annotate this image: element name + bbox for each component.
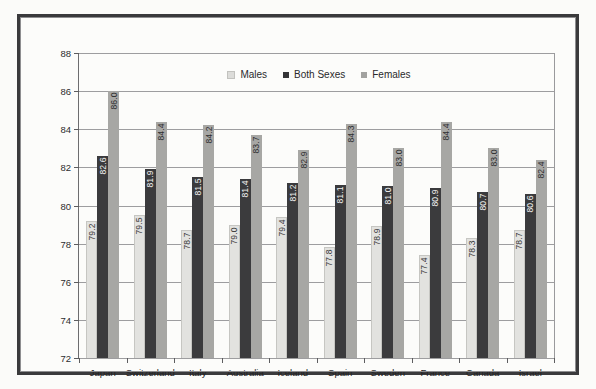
bar-value-label: 81.5 [193,178,203,195]
bar-value-label: 78.3 [467,240,477,257]
bar[interactable]: 79.5 [134,215,145,358]
bar-value-label: 80.6 [525,195,535,212]
bar-group: 79.282.686.0Japan [79,53,127,358]
bar-value-label: 80.9 [430,190,440,207]
x-axis-tick [269,358,270,363]
x-axis-category-label: Japan [90,367,116,378]
x-axis-tick [79,358,80,363]
chart-frame: MalesBoth SexesFemales 88868482807876747… [17,14,579,375]
x-axis-tick [364,358,365,363]
bar[interactable]: 79.2 [86,221,97,358]
bar[interactable]: 82.6 [97,156,108,358]
bar[interactable]: 82.9 [298,150,309,358]
bar-group: 79.481.282.9Iceland [269,53,317,358]
x-axis-category-label: Canada [466,367,499,378]
x-axis-tick [317,358,318,363]
bar-value-label: 79.4 [277,219,287,236]
y-axis-tick-label: 84 [60,124,71,135]
bar-value-label: 81.4 [240,180,250,197]
y-axis-tick-label: 76 [60,276,71,287]
bar[interactable]: 82.4 [536,160,547,358]
bar-value-label: 80.7 [478,194,488,211]
bar[interactable]: 81.5 [192,177,203,358]
y-axis-tick-label: 80 [60,200,71,211]
bar[interactable]: 79.4 [276,217,287,358]
x-axis-category-label: France [420,367,450,378]
bar-value-label: 79.5 [134,217,144,234]
bar[interactable]: 79.0 [229,225,240,358]
bar-value-label: 84.4 [441,123,451,140]
x-axis-category-label: Sweden [371,367,405,378]
y-axis-tick-label: 86 [60,86,71,97]
bar-group: 78.780.682.4Israel [507,53,555,358]
bar[interactable]: 84.4 [156,122,167,358]
bar[interactable]: 84.3 [346,124,357,358]
bar[interactable]: 81.4 [240,179,251,358]
bar-value-label: 77.4 [419,257,429,274]
bar-value-label: 78.7 [182,233,192,250]
y-axis-tick-label: 88 [60,48,71,59]
bar-group: 79.581.984.4Switzerland [127,53,175,358]
x-axis-category-label: Iceland [277,367,308,378]
bar-value-label: 83.0 [489,150,499,167]
bar[interactable]: 80.7 [477,192,488,358]
plot-area: 88868482807876747279.282.686.0Japan79.58… [78,53,555,359]
bar-group: 77.881.184.3Spain [317,53,365,358]
x-axis-category-label: Italy [189,367,206,378]
bar-value-label: 81.1 [335,186,345,203]
x-axis-tick [459,358,460,363]
x-axis-tick [412,358,413,363]
x-axis-tick [127,358,128,363]
x-axis-tick [222,358,223,363]
x-axis-category-label: Switzerland [126,367,175,378]
bar-value-label: 82.6 [98,157,108,174]
y-axis-tick-label: 72 [60,353,71,364]
bar-value-label: 81.9 [145,171,155,188]
bar-value-label: 83.0 [394,150,404,167]
bar[interactable]: 77.4 [419,255,430,358]
bar-value-label: 81.2 [288,184,298,201]
bar-value-label: 82.9 [299,152,309,169]
x-axis-category-label: Australia [227,367,264,378]
bar[interactable]: 83.0 [393,148,404,358]
bar-group: 78.781.584.2Italy [174,53,222,358]
y-axis-tick-label: 78 [60,238,71,249]
bar[interactable]: 86.0 [108,91,119,358]
bar[interactable]: 78.3 [466,238,477,358]
bar-value-label: 78.9 [372,229,382,246]
bar-group: 78.981.083.0Sweden [364,53,412,358]
x-axis-tick [174,358,175,363]
bar[interactable]: 78.9 [371,226,382,358]
bar-value-label: 84.2 [204,127,214,144]
bar-value-label: 79.2 [87,223,97,240]
bar-value-label: 78.7 [514,233,524,250]
bar[interactable]: 81.9 [145,169,156,358]
bar[interactable]: 83.0 [488,148,499,358]
bar-value-label: 81.0 [383,188,393,205]
bar[interactable]: 80.6 [525,194,536,358]
y-axis-tick-label: 82 [60,162,71,173]
bar[interactable]: 81.1 [335,185,346,358]
bar-group: 77.480.984.4France [412,53,460,358]
bar-value-label: 84.4 [156,123,166,140]
bar-value-label: 86.0 [109,93,119,110]
bar-value-label: 77.8 [324,250,334,267]
bar-value-label: 79.0 [229,227,239,244]
bar[interactable]: 84.4 [441,122,452,358]
bar[interactable]: 81.0 [382,186,393,358]
bar-group: 78.380.783.0Canada [459,53,507,358]
bar[interactable]: 80.9 [430,188,441,358]
bar[interactable]: 78.7 [181,230,192,358]
bar[interactable]: 77.8 [324,247,335,358]
bar-value-label: 82.4 [536,161,546,178]
x-axis-category-label: Israel [519,367,542,378]
bar[interactable]: 78.7 [514,230,525,358]
bar[interactable]: 83.7 [251,135,262,358]
bar-value-label: 83.7 [251,136,261,153]
y-axis-tick-label: 74 [60,314,71,325]
bar[interactable]: 84.2 [203,125,214,358]
bar[interactable]: 81.2 [287,183,298,358]
chart-canvas: MalesBoth SexesFemales 88868482807876747… [42,36,596,389]
x-axis-tick [554,358,555,363]
x-axis-tick [507,358,508,363]
